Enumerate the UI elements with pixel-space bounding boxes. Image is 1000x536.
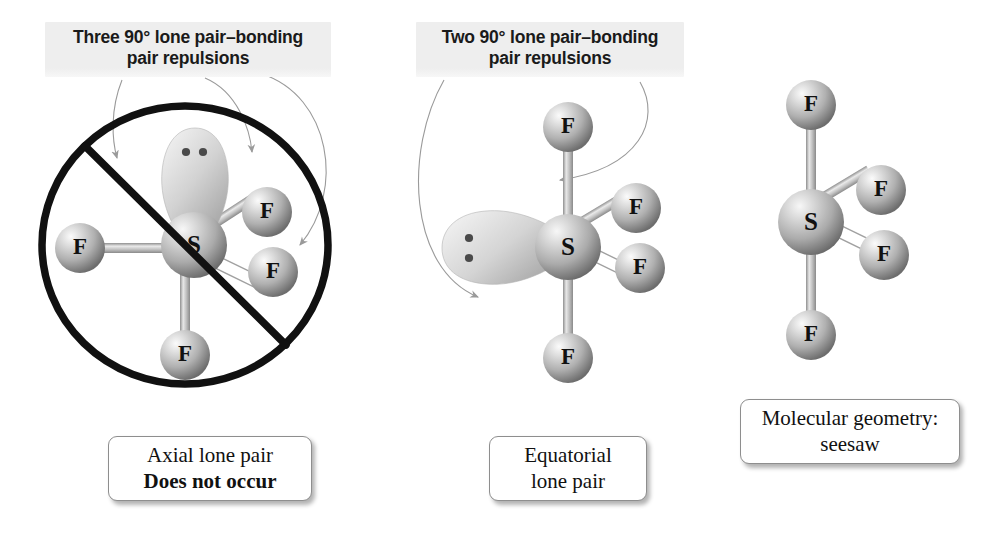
- axial-caption-line2: Does not occur: [144, 469, 277, 495]
- svg-text:F: F: [877, 241, 891, 266]
- svg-text:F: F: [804, 91, 818, 116]
- svg-text:F: F: [73, 234, 87, 259]
- svg-text:F: F: [561, 344, 575, 369]
- equatorial-caption-line2: lone pair: [531, 469, 605, 495]
- axial-caption: Axial lone pair Does not occur: [108, 436, 312, 501]
- svg-text:S: S: [804, 208, 818, 235]
- geometry-caption-line1: Molecular geometry:: [762, 406, 939, 432]
- svg-text:F: F: [260, 198, 274, 223]
- svg-text:F: F: [561, 113, 575, 138]
- svg-text:F: F: [804, 321, 818, 346]
- equatorial-lone-pair-structure: F F F F S: [419, 80, 665, 383]
- equatorial-repulsion-label: Two 90° lone pair–bonding pair repulsion…: [416, 22, 684, 77]
- svg-text:F: F: [266, 258, 280, 283]
- seesaw-structure: F F F F S: [778, 80, 909, 360]
- atoms-equatorial: F F F F S: [535, 102, 665, 383]
- svg-text:F: F: [874, 176, 888, 201]
- axial-repulsion-label: Three 90° lone pair–bonding pair repulsi…: [45, 22, 331, 77]
- geometry-caption: Molecular geometry: seesaw: [740, 399, 960, 464]
- equatorial-caption-line1: Equatorial: [524, 443, 611, 469]
- axial-caption-line1: Axial lone pair: [147, 443, 273, 469]
- svg-text:S: S: [561, 233, 575, 260]
- equatorial-caption: Equatorial lone pair: [489, 436, 647, 501]
- atoms-seesaw: F F F F S: [778, 80, 909, 360]
- axial-lone-pair-structure: F F F F S: [42, 74, 328, 384]
- svg-text:F: F: [178, 341, 192, 366]
- svg-text:F: F: [633, 254, 647, 279]
- geometry-caption-line2: seesaw: [820, 432, 879, 458]
- svg-text:F: F: [629, 194, 643, 219]
- figure-canvas: F F F F S: [0, 0, 1000, 536]
